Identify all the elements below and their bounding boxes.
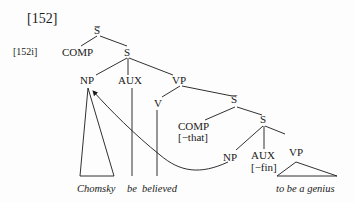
node-vp-embedded: VP <box>289 146 303 158</box>
sub-example-number: [152i] <box>13 46 37 57</box>
node-aux: AUX <box>118 74 142 86</box>
branch <box>96 58 127 75</box>
branch <box>129 58 173 75</box>
node-s: S <box>124 46 130 58</box>
comp-feature: [−that] <box>178 131 208 143</box>
example-number: [152] <box>27 11 57 26</box>
node-sbar-embedded: S̅ <box>231 93 237 105</box>
branch <box>205 107 235 120</box>
branch <box>81 36 97 46</box>
branch <box>237 107 262 115</box>
node-v: V <box>154 97 162 109</box>
branch <box>265 126 285 134</box>
word-be: be <box>127 183 137 194</box>
node-np: NP <box>80 74 94 86</box>
word-believed: believed <box>142 183 178 194</box>
node-vp: VP <box>172 74 186 86</box>
branch <box>162 86 180 97</box>
node-comp: COMP <box>62 46 93 58</box>
branch <box>100 36 127 46</box>
node-aux-embedded: AUX <box>251 149 275 161</box>
words-to-be-a-genius: to be a genius <box>276 183 335 194</box>
node-np-embedded: NP <box>223 151 237 163</box>
branch <box>182 86 232 96</box>
branch <box>236 126 263 150</box>
syntax-tree-diagram: [152] [152i] S̅ COMP S NP AUX VP V S̅ CO… <box>0 0 355 202</box>
node-sbar-root: S̅ <box>94 24 100 36</box>
word-chomsky: Chomsky <box>77 183 116 194</box>
np-triangle <box>80 88 114 176</box>
aux-feature: [−fin] <box>251 161 277 173</box>
vp-triangle <box>277 162 337 176</box>
